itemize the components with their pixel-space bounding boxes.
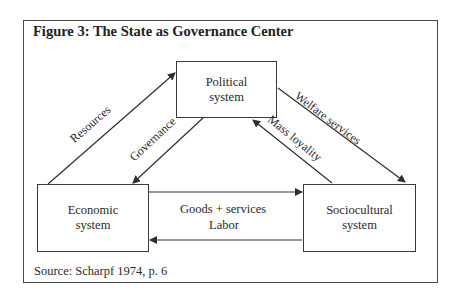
sociocultural-line2: system: [342, 218, 377, 233]
economic-line1: Economic: [68, 203, 119, 218]
sociocultural-line1: Sociocultural: [326, 203, 393, 218]
labor-label: Labor: [209, 218, 239, 233]
economic-line2: system: [76, 218, 111, 233]
diagram-arrows: [0, 0, 462, 303]
sociocultural-system-node: Sociocultural system: [303, 184, 416, 252]
political-line1: Political: [206, 75, 248, 90]
goods-label: Goods + services: [180, 202, 266, 217]
political-line2: system: [209, 90, 244, 105]
political-system-node: Political system: [176, 61, 277, 118]
economic-system-node: Economic system: [37, 184, 149, 252]
figure-source: Source: Scharpf 1974, p. 6: [34, 264, 167, 279]
